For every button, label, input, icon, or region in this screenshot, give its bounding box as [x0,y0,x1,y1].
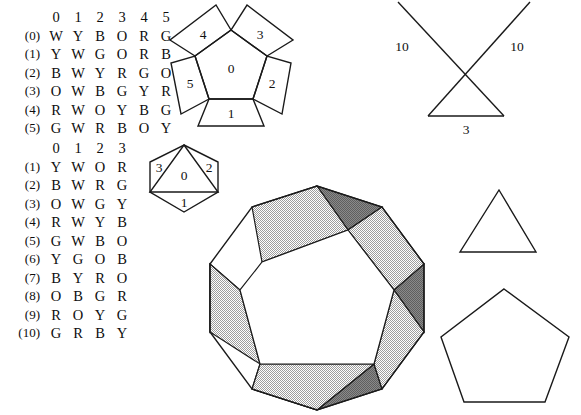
table-cell: Y [89,64,111,83]
pentagon-flap-label-2: 2 [269,76,276,91]
table-cell: G [111,306,133,325]
row-label: (1) [6,45,45,64]
table-cell: B [45,269,67,288]
table-row: (4) R W Y B [6,213,133,232]
table-cell: Y [89,213,111,232]
table-row: (10) G R B Y [6,324,133,343]
table-row: (7) B Y R O [6,269,133,288]
table-row: (3) O W B G Y R [6,82,177,101]
table-cell: O [45,287,67,306]
table-corner-cell [6,139,45,158]
table-row: (2) B W R G [6,176,133,195]
table-cell: G [45,119,67,138]
plain-pentagon-figure [436,276,574,410]
table-cell: G [67,250,89,269]
table-cell: Y [45,158,67,177]
side-length-label-right: 10 [510,39,524,54]
table-row: (3) O W G Y [6,195,133,214]
table-cell: R [133,45,155,64]
table-row: (8) O B G R [6,287,133,306]
table-cell: G [45,232,67,251]
table-cell: R [89,269,111,288]
table-cell: Y [133,82,155,101]
table-cell: G [89,195,111,214]
shaded-decagon-diagram [196,186,438,410]
table-cell: B [45,64,67,83]
table-cell: R [111,158,133,177]
table-cell: B [89,27,111,46]
column-header: 3 [111,8,133,27]
table-cell: R [89,119,111,138]
table-cell: W [67,195,89,214]
table-row: (1) Y W G O R B [6,45,177,64]
table-header-row: 0 1 2 3 [6,139,133,158]
row-label: (1) [6,158,45,177]
table-cell: B [89,232,111,251]
table-cell: Y [45,250,67,269]
hexagon-flap-label-2: 2 [206,160,213,175]
table-cell: O [111,269,133,288]
row-label: (4) [6,213,45,232]
table-cell: O [89,158,111,177]
row-label: (4) [6,101,45,120]
table-cell: B [133,101,155,120]
pentagon-center-label: 0 [228,61,235,76]
table-cell: W [67,82,89,101]
crossed-lines-triangle-diagram: 10 10 3 [380,0,580,140]
table-row: (0) W Y B O R G [6,27,177,46]
table-cell: Y [67,27,89,46]
table-cell: Y [111,195,133,214]
table-cell: R [133,27,155,46]
table-cell: B [45,176,67,195]
row-label: (7) [6,269,45,288]
row-label: (5) [6,232,45,251]
plain-triangle [460,190,536,252]
table-cell: B [89,324,111,343]
table-row: (6) Y G O B [6,250,133,269]
crossing-line-left [398,2,504,116]
table-cell: Y [45,45,67,64]
table-row: (1) Y W O R [6,158,133,177]
column-header: 1 [67,8,89,27]
table-row: (9) R O Y G [6,306,133,325]
table-cell: W [45,27,67,46]
row-label: (10) [6,324,45,343]
column-header: 2 [89,8,111,27]
table-row: (4) R W O Y B G [6,101,177,120]
table-cell: O [111,232,133,251]
table-cell: W [67,45,89,64]
hexagon-flap-label-3: 3 [156,160,163,175]
table-cell: R [67,324,89,343]
table-cell: W [67,64,89,83]
table-cell: G [111,82,133,101]
face-color-table-1: 0 1 2 3 4 5 (0) W Y B O R G (1) Y W G [6,8,177,138]
column-header: 4 [133,8,155,27]
figure-page: 0 1 2 3 4 5 (0) W Y B O R G (1) Y W G [0,0,581,415]
column-header: 2 [89,139,111,158]
table-cell: O [45,82,67,101]
table-cell: O [111,27,133,46]
table-cell: G [133,64,155,83]
table-cell: R [89,176,111,195]
column-header: 3 [111,139,133,158]
table-cell: R [45,213,67,232]
column-header: 1 [67,139,89,158]
row-label: (9) [6,306,45,325]
table-cell: O [67,306,89,325]
row-label: (6) [6,250,45,269]
pentagon-net-diagram: 0 1 2 3 4 5 [168,2,294,134]
table-cell: B [111,213,133,232]
table-cell: R [45,101,67,120]
table-cell: W [67,176,89,195]
table-cell: W [67,213,89,232]
pentagon-flap-label-4: 4 [200,27,207,42]
table-cell: R [111,64,133,83]
pentagon-flap-label-1: 1 [228,106,235,121]
table-row: (5) G W B O [6,232,133,251]
face-color-table-2: 0 1 2 3 (1) Y W O R (2) B W R G (3) O [6,139,133,343]
column-header: 0 [45,8,67,27]
table-header-row: 0 1 2 3 4 5 [6,8,177,27]
table-cell: B [89,82,111,101]
table-cell: W [67,119,89,138]
table-cell: B [111,119,133,138]
